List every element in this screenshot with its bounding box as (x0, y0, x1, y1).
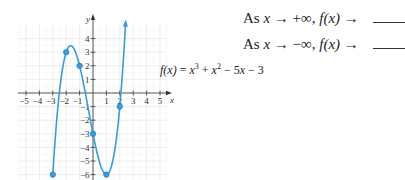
function-graph: −5−4−3−2−112345−6−5−4−3−2−11234xy (0, 0, 180, 180)
svg-text:1: 1 (104, 96, 109, 106)
arrow: → (340, 10, 363, 26)
svg-text:4: 4 (85, 34, 90, 44)
svg-text:−5: −5 (80, 156, 90, 166)
data-point (50, 172, 56, 178)
svg-text:4: 4 (144, 96, 149, 106)
question-positive-infinity: As x → +∞, f(x) → (243, 10, 405, 27)
question-negative-infinity: As x → −∞, f(x) → (243, 36, 405, 53)
answer-blank-2[interactable] (373, 36, 405, 49)
curve-arrow-icon (123, 20, 128, 27)
svg-text:2: 2 (85, 61, 90, 71)
svg-text:−4: −4 (33, 96, 43, 106)
limit: +∞ (293, 10, 312, 26)
arrow: → (270, 10, 293, 26)
svg-text:1: 1 (85, 75, 90, 85)
limit: −∞ (293, 36, 312, 52)
svg-text:y: y (85, 14, 90, 24)
data-point (104, 172, 110, 178)
svg-text:−6: −6 (80, 170, 90, 180)
data-point (90, 131, 96, 137)
svg-text:−4: −4 (80, 143, 90, 153)
svg-text:−2: −2 (80, 115, 90, 125)
svg-text:3: 3 (85, 47, 90, 57)
arrow: → (340, 36, 363, 52)
minus-3: − 3 (245, 63, 264, 77)
as-text: As (243, 10, 263, 26)
arrow: → (270, 36, 293, 52)
function-lhs: f(x) (160, 63, 177, 77)
svg-text:x: x (169, 95, 174, 105)
minus-5: − 5 (221, 63, 240, 77)
data-point (63, 49, 69, 55)
svg-text:−5: −5 (19, 96, 29, 106)
function-eq: = (177, 63, 190, 77)
data-point (77, 63, 83, 69)
svg-text:−3: −3 (80, 129, 90, 139)
fx: f(x) (319, 10, 340, 26)
svg-text:−2: −2 (59, 96, 69, 106)
data-point (117, 104, 123, 110)
as-text: As (243, 36, 263, 52)
answer-blank-1[interactable] (373, 10, 405, 23)
svg-text:3: 3 (131, 96, 136, 106)
fx: f(x) (319, 36, 340, 52)
plus: + (199, 63, 212, 77)
function-label: f(x) = x3 + x2 − 5x − 3 (160, 62, 264, 78)
svg-text:−3: −3 (46, 96, 56, 106)
svg-text:5: 5 (158, 96, 163, 106)
